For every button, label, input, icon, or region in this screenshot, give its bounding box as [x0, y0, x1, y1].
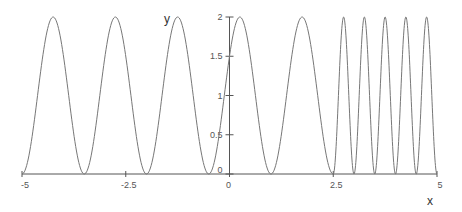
x-tick-label: 5	[437, 180, 442, 190]
y-axis: 00.511.52	[210, 12, 234, 175]
y-tick-label: 1.5	[210, 51, 223, 61]
y-tick-label: 0.5	[210, 130, 223, 140]
y-axis-label: y	[164, 12, 170, 26]
x-tick-label: -2.5	[121, 180, 137, 190]
y-tick-label: 2	[217, 12, 222, 22]
y-tick-label: 0	[217, 165, 222, 175]
x-tick-label: 2.5	[330, 180, 343, 190]
x-tick-label: -5	[21, 180, 29, 190]
x-tick-label: 0	[226, 180, 231, 190]
y-tick-label: 1	[217, 91, 222, 101]
x-axis-label: x	[427, 194, 433, 208]
line-chart: -5-2.52.550 00.511.52 x y	[0, 0, 462, 212]
